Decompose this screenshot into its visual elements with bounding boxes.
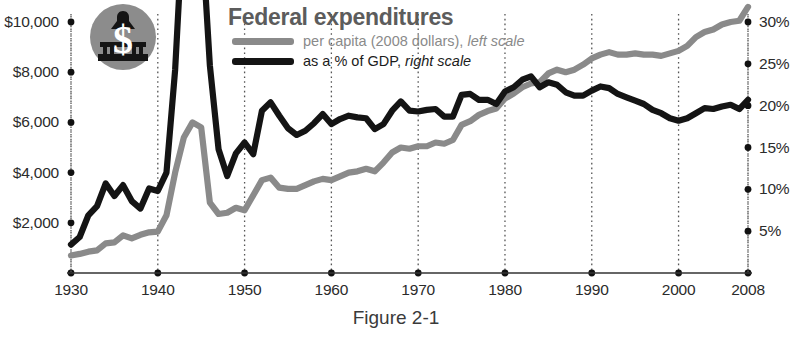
y-axis-right-tick-dot <box>745 144 752 151</box>
y-axis-left-tick-dot <box>68 19 75 26</box>
y-axis-left-tick-dot <box>68 119 75 126</box>
figure-container: $ Federal expenditures per capita (2008 … <box>0 0 792 341</box>
y-axis-left-tick-label: $8,000 <box>0 63 59 81</box>
x-axis-tick-label: 1970 <box>401 281 435 299</box>
y-axis-right-tick-label: 30% <box>759 13 789 31</box>
capitol-dollar-logo: $ <box>86 2 160 72</box>
y-axis-right-tick-label: 25% <box>759 55 789 73</box>
legend-swatch-gdp-percent <box>232 58 294 65</box>
x-axis-tick-label: 2008 <box>731 281 765 299</box>
y-axis-left-tick-label: $4,000 <box>0 164 59 182</box>
y-axis-right-tick-dot <box>745 19 752 26</box>
legend-label-per-capita: per capita (2008 dollars), left scale <box>303 33 525 49</box>
y-axis-right-tick-label: 15% <box>759 139 789 157</box>
dollar-symbol: $ <box>113 17 133 62</box>
legend-item-gdp-percent: as a % of GDP, right scale <box>232 53 471 69</box>
y-axis-right-tick-dot <box>745 60 752 67</box>
legend-label-per-capita-main: per capita (2008 dollars), <box>303 33 467 49</box>
y-axis-left-tick-label: $2,000 <box>0 214 59 232</box>
x-axis-tick-label: 1960 <box>315 281 349 299</box>
legend-swatch-per-capita <box>232 38 294 45</box>
y-axis-right-tick-label: 10% <box>759 180 789 198</box>
x-axis-tick-label: 1930 <box>54 281 88 299</box>
x-axis-tick-label: 1990 <box>575 281 609 299</box>
legend-item-per-capita: per capita (2008 dollars), left scale <box>232 33 525 49</box>
x-axis-tick-label: 1980 <box>488 281 522 299</box>
y-axis-right-tick-dot <box>745 186 752 193</box>
y-axis-left-tick-dot <box>68 169 75 176</box>
y-axis-right-tick-label: 5% <box>759 222 781 240</box>
legend-label-per-capita-scale: left scale <box>467 33 524 49</box>
y-axis-left-tick-dot <box>68 69 75 76</box>
y-axis-left-tick-dot <box>68 219 75 226</box>
x-axis-tick-label: 1940 <box>141 281 175 299</box>
y-axis-left-tick-label: $6,000 <box>0 113 59 131</box>
legend-label-gdp-main: as a % of GDP, <box>303 53 405 69</box>
x-axis-tick-label: 2000 <box>662 281 696 299</box>
x-axis-tick-label: 1950 <box>228 281 262 299</box>
y-axis-right-tick-label: 20% <box>759 97 789 115</box>
y-axis-left-tick-label: $10,000 <box>0 13 59 31</box>
page-title: Federal expenditures <box>228 4 453 31</box>
y-axis-right-tick-dot <box>745 228 752 235</box>
legend-label-gdp-scale: right scale <box>405 53 471 69</box>
legend-label-gdp-percent: as a % of GDP, right scale <box>303 53 471 69</box>
figure-caption: Figure 2-1 <box>0 307 792 329</box>
